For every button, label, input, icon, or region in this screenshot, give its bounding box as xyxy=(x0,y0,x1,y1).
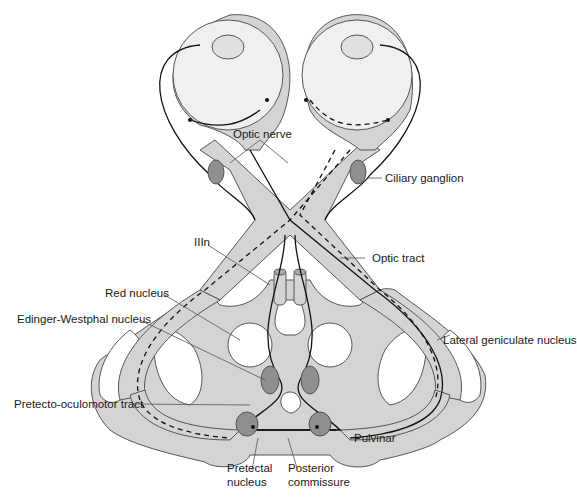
label-pretectal-1: Pretectal xyxy=(227,462,272,474)
label-ciliary-ganglion: Ciliary ganglion xyxy=(385,172,464,184)
label-optic-nerve: Optic nerve xyxy=(233,128,292,140)
red-nucleus-left xyxy=(228,323,272,367)
label-posterior-1: Posterior xyxy=(288,462,334,474)
label-iiin: IIIn xyxy=(194,236,210,248)
label-pulvinar: Pulvinar xyxy=(354,432,396,444)
red-nucleus-right xyxy=(308,323,352,367)
label-pretectal-2: nucleus xyxy=(227,476,267,488)
right-eye xyxy=(302,15,413,150)
label-posterior-2: commissure xyxy=(288,476,350,488)
label-pretecto-oculomotor: Pretecto-oculomotor tract xyxy=(14,398,144,410)
pupillary-reflex-diagram: Optic nerve Ciliary ganglion Optic tract… xyxy=(0,0,577,500)
label-red-nucleus: Red nucleus xyxy=(105,287,169,299)
label-lateral-geniculate: Lateral geniculate nucleus xyxy=(443,334,577,346)
label-edinger-westphal: Edinger-Westphal nucleus xyxy=(17,313,151,325)
label-optic-tract: Optic tract xyxy=(372,252,425,264)
